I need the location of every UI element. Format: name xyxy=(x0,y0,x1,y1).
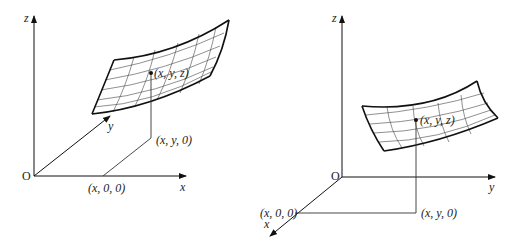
right-origin-label: O xyxy=(331,169,340,183)
right-point-xyz-label: (x, y, z) xyxy=(420,113,455,127)
left-y-label: y xyxy=(107,119,114,133)
left-figure: z x y O (x, y, z) (x, y, 0) (x, 0, 0) xyxy=(22,11,229,195)
left-z-label: z xyxy=(23,11,29,25)
left-y-axis xyxy=(34,116,110,176)
left-point-xy0-label: (x, y, 0) xyxy=(156,133,192,147)
right-y-label: y xyxy=(488,180,495,194)
left-diagonal-projection xyxy=(103,138,151,176)
right-point-marker xyxy=(414,118,418,122)
left-origin-label: O xyxy=(22,169,31,183)
left-point-xyz-label: (x, y, z) xyxy=(154,66,189,80)
right-figure: z y x O (x, y, z) (x, y, 0) (x, 0, 0) xyxy=(260,11,498,236)
left-point-x00-label: (x, 0, 0) xyxy=(88,181,125,195)
left-x-label: x xyxy=(179,180,186,194)
right-point-x00-label: (x, 0, 0) xyxy=(260,206,297,220)
diagram-canvas: z x y O (x, y, z) (x, y, 0) (x, 0, 0) xyxy=(0,0,521,251)
right-point-xy0-label: (x, y, 0) xyxy=(421,206,457,220)
right-z-label: z xyxy=(331,11,337,25)
left-point-marker xyxy=(149,71,153,75)
